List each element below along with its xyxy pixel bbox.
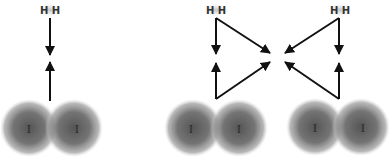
iodine-atom-label: I — [75, 123, 79, 136]
panel-left: H H I I — [0, 3, 103, 157]
panel-right: H H I I — [285, 3, 390, 156]
arrow-diagonal-down — [285, 18, 339, 53]
panel-middle: H H I I — [164, 3, 270, 157]
arrow-diagonal-down — [216, 18, 270, 53]
iodine-atom-label: I — [189, 123, 193, 136]
h2-label: H H — [206, 5, 226, 16]
arrow-diagonal-up — [216, 62, 270, 99]
h2-molecule: H H — [204, 3, 228, 17]
h2-molecule: H H — [38, 3, 62, 17]
iodine-atom-label: I — [313, 122, 317, 135]
iodine-atom-label: I — [361, 122, 365, 135]
diagram-canvas: H H I I H H I I — [0, 0, 392, 161]
reaction-diagram: H H I I H H I I — [0, 0, 392, 161]
iodine-atom-label: I — [27, 123, 31, 136]
h2-label: H H — [40, 5, 60, 16]
i2-molecule: I I — [286, 98, 390, 156]
i2-molecule: I I — [0, 99, 103, 157]
h2-label: H H — [330, 5, 350, 16]
h2-molecule: H H — [328, 3, 352, 17]
iodine-atom-label: I — [237, 123, 241, 136]
arrow-diagonal-up — [285, 62, 339, 99]
i2-molecule: I I — [164, 99, 268, 157]
